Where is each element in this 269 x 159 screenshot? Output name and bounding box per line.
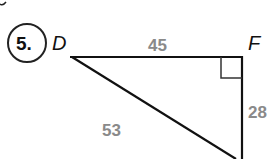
side-length-hypotenuse: 53	[102, 121, 121, 140]
side-length-vertical: 28	[248, 103, 267, 122]
right-angle-marker	[221, 57, 242, 78]
problem-number: 5.	[16, 33, 32, 54]
side-length-df: 45	[148, 36, 167, 55]
cropped-glyph	[0, 2, 6, 5]
vertex-label-f: F	[248, 32, 262, 54]
vertex-label-d: D	[52, 32, 66, 54]
triangle-diagram: 5. D F 45 28 53	[0, 0, 269, 159]
side-hypotenuse	[72, 57, 236, 159]
